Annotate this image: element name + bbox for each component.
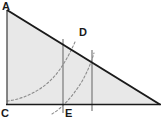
geometry-figure: A D C E [0,0,167,123]
vertex-label-C: C [1,108,9,119]
vertex-label-A: A [2,1,10,12]
vertex-label-E: E [65,108,72,119]
vertex-label-D: D [79,27,87,38]
geometry-figure-canvas [0,0,167,123]
